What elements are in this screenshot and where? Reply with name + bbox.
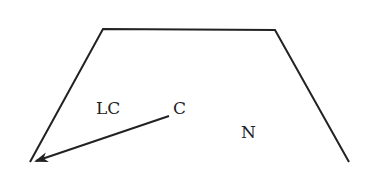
trapezoid-outline <box>30 29 349 162</box>
label-lc: LC <box>96 100 120 117</box>
label-c: C <box>173 100 186 117</box>
diagram-svg <box>0 0 367 187</box>
diagram-canvas: LC C N <box>0 0 367 187</box>
arrow-c-to-lc <box>36 116 169 161</box>
label-n: N <box>241 124 256 141</box>
